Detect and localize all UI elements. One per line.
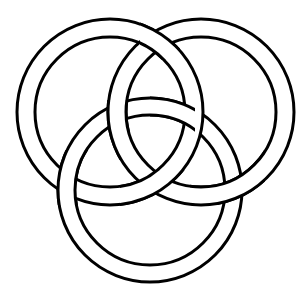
- interlaced-rings-diagram: [0, 0, 307, 293]
- rings-base-layer: [17, 19, 294, 282]
